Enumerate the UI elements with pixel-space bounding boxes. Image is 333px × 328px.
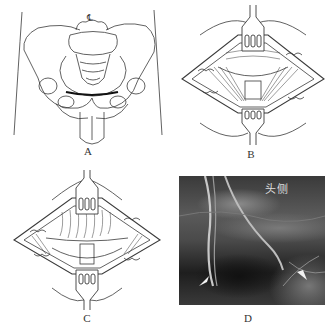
retractor-top bbox=[76, 170, 98, 214]
panel-label-d: D bbox=[238, 312, 258, 324]
panel-label-c: C bbox=[77, 312, 97, 324]
retractor-top bbox=[242, 5, 264, 51]
sling-left bbox=[205, 176, 213, 286]
arrowhead-left bbox=[199, 276, 209, 286]
panel-d-photo: 头侧 bbox=[179, 176, 325, 305]
panel-c bbox=[12, 170, 162, 310]
panel-a: ℄ bbox=[8, 0, 168, 145]
retractor-bottom bbox=[76, 270, 98, 310]
panel-label-b: B bbox=[241, 148, 261, 160]
panel-b bbox=[178, 5, 328, 145]
surgical-photo bbox=[179, 176, 325, 305]
photo-annotation-cranial: 头侧 bbox=[265, 180, 289, 196]
panel-label-a: A bbox=[78, 145, 98, 157]
retracted-incision-c bbox=[12, 170, 162, 310]
centerline-symbol: ℄ bbox=[87, 13, 93, 23]
retracted-incision-b bbox=[178, 5, 328, 145]
retractor-bottom bbox=[242, 109, 264, 145]
incision-line bbox=[66, 92, 118, 95]
